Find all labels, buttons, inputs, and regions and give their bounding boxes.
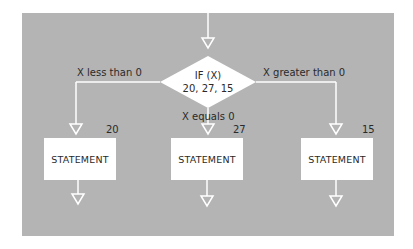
condition-less-than: X less than 0	[77, 68, 142, 78]
target-label-15: 15	[362, 125, 375, 135]
statement-box-right: STATEMENT	[301, 138, 373, 180]
condition-greater-than: X greater than 0	[263, 68, 345, 78]
flow-connectors	[0, 0, 413, 249]
statement-label: STATEMENT	[178, 154, 236, 165]
condition-equals: X equals 0	[182, 112, 235, 122]
target-label-20: 20	[106, 125, 119, 135]
statement-label: STATEMENT	[51, 154, 109, 165]
decision-text: IF (X) 20, 27, 15	[160, 70, 256, 95]
decision-line2: 20, 27, 15	[160, 83, 256, 96]
statement-label: STATEMENT	[308, 154, 366, 165]
target-label-27: 27	[233, 125, 246, 135]
decision-line1: IF (X)	[160, 70, 256, 83]
statement-box-middle: STATEMENT	[171, 138, 243, 180]
statement-box-left: STATEMENT	[44, 138, 116, 180]
